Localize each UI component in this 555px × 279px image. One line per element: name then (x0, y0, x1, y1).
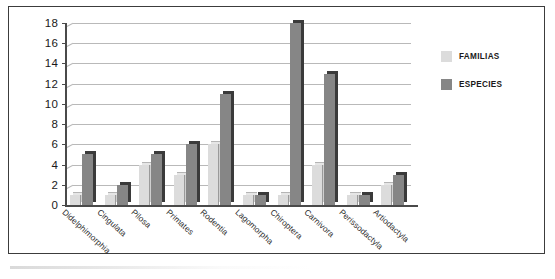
y-axis-tick-label: 14 (45, 57, 58, 69)
y-axis-tick-label: 2 (51, 179, 58, 191)
bar-front-face (347, 195, 358, 205)
bar-especies (290, 23, 301, 205)
bar-front-face (117, 185, 128, 205)
x-axis-label-rodentia: Rodentia (199, 207, 231, 237)
bar-group (100, 23, 135, 205)
scan-artifact (10, 266, 310, 269)
bar-especies (220, 94, 231, 205)
bar-especies (393, 175, 404, 205)
bar-familias (312, 165, 323, 205)
legend-label: ESPECIES (459, 80, 502, 89)
bar-especies (186, 144, 197, 205)
bar-familias (278, 195, 289, 205)
y-axis-tick-label: 10 (45, 98, 58, 110)
bar-especies (359, 195, 370, 205)
x-axis-label-primates: Primates (164, 207, 196, 237)
y-axis-tick-mark (62, 205, 66, 206)
y-axis-tick-label: 8 (51, 118, 58, 130)
bar-side-face (301, 20, 304, 202)
bar-familias (105, 195, 116, 205)
bar-front-face (208, 144, 219, 205)
bar-side-face (231, 91, 234, 202)
bar-group (203, 23, 238, 205)
bar-front-face (381, 185, 392, 205)
y-axis-tick-label: 18 (45, 17, 58, 29)
bar-front-face (70, 195, 81, 205)
bar-front-face (393, 175, 404, 205)
bar-group (238, 23, 273, 205)
bar-group (342, 23, 377, 205)
x-axis-category-labels: DidelphimorphiaCingulataPilosaPrimatesRo… (65, 207, 425, 261)
bar-front-face (105, 195, 116, 205)
bar-front-face (139, 165, 150, 205)
bar-group (134, 23, 169, 205)
bar-especies (255, 195, 266, 205)
legend-swatch-especies (441, 79, 452, 90)
bar-group (376, 23, 411, 205)
y-axis-tick-label: 6 (51, 138, 58, 150)
legend-item-especies: ESPECIES (441, 79, 537, 90)
bar-especies (117, 185, 128, 205)
bar-front-face (151, 154, 162, 205)
bar-side-face (162, 151, 165, 202)
bar-group (169, 23, 204, 205)
bar-group (307, 23, 342, 205)
bar-front-face (290, 23, 301, 205)
bar-front-face (82, 154, 93, 205)
y-axis-tick-label: 4 (51, 159, 58, 171)
bar-side-face (93, 151, 96, 202)
x-axis-label-pilosa: Pilosa (129, 207, 153, 230)
plot-area: 024681012141618 (65, 23, 411, 205)
bar-side-face (404, 172, 407, 202)
bar-front-face (186, 144, 197, 205)
bar-front-face (359, 195, 370, 205)
bar-especies (82, 154, 93, 205)
bar-familias (381, 185, 392, 205)
bar-especies (324, 74, 335, 205)
legend-swatch-familias (441, 51, 452, 62)
bar-familias (139, 165, 150, 205)
bar-especies (151, 154, 162, 205)
bar-familias (70, 195, 81, 205)
bar-familias (208, 144, 219, 205)
y-axis-tick-label: 16 (45, 37, 58, 49)
bar-front-face (255, 195, 266, 205)
x-axis-label-cingulata: Cingulata (95, 207, 128, 238)
y-axis-tick-label: 12 (45, 78, 58, 90)
bar-front-face (278, 195, 289, 205)
bars-layer (65, 23, 411, 205)
figure-frame: 024681012141618 DidelphimorphiaCingulata… (8, 6, 545, 254)
bar-side-face (128, 182, 131, 202)
bar-familias (174, 175, 185, 205)
y-axis-tick-label: 0 (51, 199, 58, 211)
x-axis-label-chiroptera: Chiroptera (268, 207, 304, 241)
bar-group (273, 23, 308, 205)
legend-label: FAMILIAS (459, 52, 500, 61)
bar-front-face (220, 94, 231, 205)
bar-familias (347, 195, 358, 205)
bar-front-face (243, 195, 254, 205)
bar-front-face (174, 175, 185, 205)
bar-side-face (335, 71, 338, 202)
legend-item-familias: FAMILIAS (441, 51, 537, 62)
x-axis-label-carnivora: Carnivora (302, 207, 336, 239)
bar-front-face (324, 74, 335, 205)
bar-side-face (197, 141, 200, 202)
bar-front-face (312, 165, 323, 205)
bar-group (65, 23, 100, 205)
bar-familias (243, 195, 254, 205)
chart-legend: FAMILIASESPECIES (441, 51, 537, 107)
